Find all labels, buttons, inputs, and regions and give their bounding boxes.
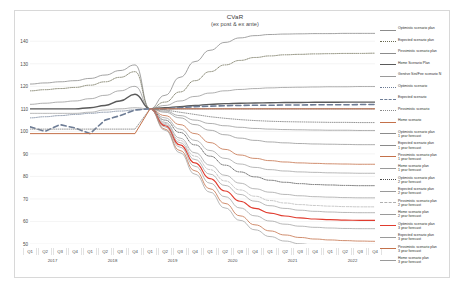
series-line [30,109,375,129]
x-axis-tick-label: Q4 [188,248,202,255]
legend-swatch-icon [380,39,396,45]
legend-item[interactable]: Optimistic scenario plan1 year forecast [380,129,458,140]
y-axis-tick-label: 80 [2,174,28,179]
x-axis: Q1Q2Q3Q4Q1Q2Q3Q4Q1Q2Q3Q4Q1Q2Q3Q4Q1Q2Q3Q4… [30,246,375,272]
series-line [150,109,375,145]
legend-swatch-icon [380,73,396,79]
x-axis-tick-label: Q4 [248,248,262,255]
legend-swatch-icon [380,223,396,229]
legend-item[interactable]: Home scenario plan1 year forecast [380,164,458,175]
legend-label: Expected scenario [398,95,426,100]
legend-item[interactable]: Pessimistic scenario plan3 year forecast [380,244,458,255]
legend-label-sub: 2 year forecast [398,180,435,184]
chart-legend: Optimistic scenario planExpected scenari… [380,26,458,267]
x-axis-tick-label: Q2 [278,248,292,255]
x-axis-tick-label: Q3 [353,248,367,255]
legend-item[interactable]: Genève Sini/Fee scenario N [380,72,458,83]
legend-item[interactable]: Pessimistic scenario [380,106,458,117]
y-axis-tick-label: 60 [2,219,28,224]
legend-label: Expected scenario plan1 year forecast [398,141,434,150]
series-line [150,109,375,207]
legend-item[interactable]: Optimistic scenario plan [380,26,458,37]
x-axis-tick-label: Q2 [218,248,232,255]
legend-swatch-icon [380,246,396,252]
legend-label-sub: 2 year forecast [398,203,437,207]
legend-swatch-icon [380,154,396,160]
x-axis-year-label: 2020 [213,258,253,263]
y-axis-tick-label: 130 [2,61,28,66]
legend-item[interactable]: Pessimistic scenario plan2 year forecast [380,198,458,209]
legend-swatch-icon [380,85,396,91]
legend-swatch-icon [380,96,396,102]
x-axis-tick-label: Q3 [293,248,307,255]
legend-label: Optimistic scenario plan3 year forecast [398,221,435,230]
series-canvas [30,30,375,244]
legend-item[interactable]: Optimistic scenario plan3 year forecast [380,221,458,232]
y-axis-tick-label: 90 [2,151,28,156]
legend-label: Pessimistic scenario plan1 year forecast [398,152,437,161]
legend-label: Pessimistic scenario plan2 year forecast [398,198,437,207]
legend-swatch-icon [380,62,396,68]
legend-item[interactable]: Pessimistic scenario plan1 year forecast [380,152,458,163]
legend-label: Home scenario plan3 year forecast [398,256,429,265]
legend-item[interactable]: Home scenario plan3 year forecast [380,256,458,267]
legend-label-sub: 3 year forecast [398,249,437,253]
legend-item[interactable]: Home scenario plan2 year forecast [380,210,458,221]
x-axis-tick-label: Q1 [263,248,277,255]
legend-swatch-icon [380,188,396,194]
legend-label: Home scenario plan1 year forecast [398,164,429,173]
legend-label-sub: 1 year forecast [398,134,435,138]
legend-item[interactable]: Expected scenario [380,95,458,106]
legend-swatch-icon [380,200,396,206]
legend-item[interactable]: Expected scenario plan1 year forecast [380,141,458,152]
x-axis-tick-label: Q3 [53,248,67,255]
legend-item[interactable]: Pessimistic scenario plan [380,49,458,60]
y-axis-tick-label: 100 [2,129,28,134]
legend-label: Home Scenario Plan [398,60,430,65]
x-axis-tick-label: Q1 [203,248,217,255]
series-line [30,109,375,118]
y-axis: 1401301201101009080706050 [0,30,28,244]
legend-swatch-icon [380,28,396,34]
legend-label-sub: 1 year forecast [398,157,437,161]
legend-swatch-icon [380,211,396,217]
legend-label: Expected scenario plan3 year forecast [398,233,434,242]
legend-swatch-icon [380,177,396,183]
legend-label-sub: 1 year forecast [398,168,429,172]
legend-swatch-icon [380,142,396,148]
legend-label: Optimistic scenario plan1 year forecast [398,129,435,138]
x-axis-tick-label: Q1 [23,248,37,255]
x-axis-tick-label: Q1 [323,248,337,255]
legend-item[interactable]: Expected scenario plan [380,37,458,48]
legend-item[interactable]: Optimistic scenario plan2 year forecast [380,175,458,186]
legend-swatch-icon [380,131,396,137]
legend-label: Pessimistic scenario plan3 year forecast [398,244,437,253]
x-axis-tick-label: Q4 [308,248,322,255]
x-axis-tick-label: Q3 [173,248,187,255]
legend-swatch-icon [380,50,396,56]
legend-swatch-icon [380,108,396,114]
legend-label-sub: 3 year forecast [398,237,434,241]
legend-item[interactable]: Expected scenario plan2 year forecast [380,187,458,198]
legend-item[interactable]: Home Scenario Plan [380,60,458,71]
legend-label: Optimistic scenario plan [398,26,435,31]
legend-label-sub: 2 year forecast [398,214,429,218]
legend-item[interactable]: Home scenario [380,118,458,129]
x-axis-year-label: 2022 [333,258,373,263]
y-axis-tick-label: 50 [2,242,28,247]
legend-label: Expected scenario plan [398,37,434,42]
x-axis-year-label: 2019 [153,258,193,263]
legend-swatch-icon [380,165,396,171]
legend-item[interactable]: Expected scenario plan3 year forecast [380,233,458,244]
y-axis-tick-label: 110 [2,106,28,111]
x-axis-tick-label: Q2 [98,248,112,255]
legend-swatch-icon [380,257,396,263]
legend-label: Pessimistic scenario [398,106,429,111]
x-axis-tick-label: Q2 [158,248,172,255]
x-axis-tick-label: Q3 [233,248,247,255]
legend-label: Genève Sini/Fee scenario N [398,72,441,77]
x-axis-year-label: 2017 [33,258,73,263]
legend-label: Expected scenario plan2 year forecast [398,187,434,196]
x-axis-tick-label: Q2 [338,248,352,255]
legend-item[interactable]: Optimistic scenario [380,83,458,94]
